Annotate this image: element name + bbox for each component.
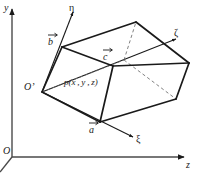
- figure-canvas: y z O η ζ ξ a b c O’ p(x , y , z): [0, 0, 199, 185]
- vector-b-label: b: [48, 37, 53, 47]
- xi-axis-label: ξ: [136, 134, 140, 144]
- point-p-label: p(x , y , z): [64, 78, 98, 87]
- x-axis-line: [0, 157, 12, 172]
- parallelepiped-visible-edges: [42, 22, 189, 122]
- z-axis-label: z: [186, 160, 190, 170]
- edge-topback-to-topright: [136, 22, 189, 63]
- vector-c-label: c: [103, 52, 107, 62]
- local-origin-label: O’: [24, 82, 35, 92]
- edge-frontright-to-topright: [176, 63, 189, 99]
- edge-a-to-c: [100, 66, 113, 122]
- y-axis-label: y: [4, 3, 8, 13]
- parallelepiped-hidden-edges: [42, 22, 176, 99]
- eta-axis-label: η: [69, 3, 74, 13]
- edge-b-to-topback: [62, 22, 136, 47]
- edge-oprime-to-a: [42, 92, 100, 122]
- edge-a-to-frontright: [100, 99, 176, 122]
- origin-label: O: [3, 146, 10, 156]
- figure-vector-graphics: [0, 0, 199, 185]
- zeta-axis-label: ζ: [174, 28, 178, 38]
- edge-topright-to-c: [113, 63, 189, 66]
- vector-a-label: a: [89, 125, 94, 135]
- hidden-edge-inner-vertical: [124, 22, 136, 60]
